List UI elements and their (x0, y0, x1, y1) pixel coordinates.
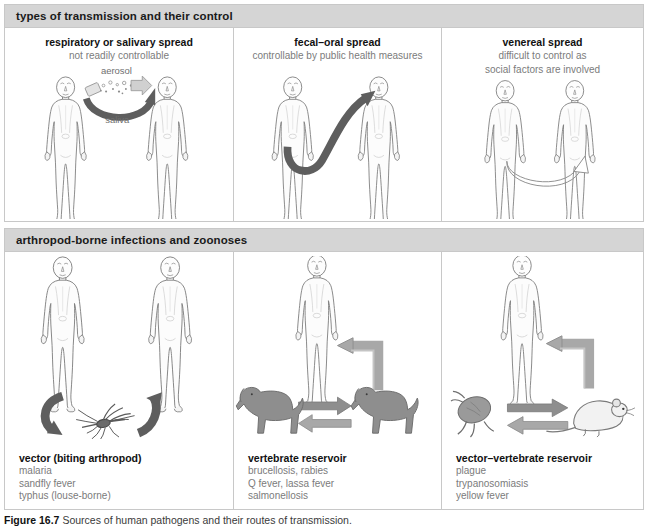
mosquito-icon (76, 404, 134, 439)
caption-line-vertebrate-2: Q fever, lassa fever (248, 478, 433, 491)
caption-head-vector-vertebrate: vector–vertebrate reservoir (456, 451, 635, 465)
human-body-icon (296, 256, 338, 407)
figure-caption: Figure 16.7 Sources of human pathogens a… (4, 514, 644, 528)
section-transmission-types: types of transmission and their control … (4, 4, 644, 222)
aerosol-spray-icon (85, 76, 152, 97)
human-body-icon (272, 77, 313, 219)
caption-vertebrate-reservoir: vertebrate reservoir brucellosis, rabies… (248, 451, 433, 503)
reservoir-arrow-icon (546, 336, 589, 389)
panel-title-venereal: venereal spread (442, 36, 643, 49)
human-body-icon (45, 77, 86, 219)
panel-vector-arthropod: vector (biting arthropod) malaria sandfl… (5, 252, 233, 509)
panel-vector-vertebrate-reservoir: vector–vertebrate reservoir plague trypa… (441, 252, 643, 509)
panel-row-bottom: vector (biting arthropod) malaria sandfl… (5, 252, 643, 509)
artwork-fecal-oral-spread (234, 64, 441, 219)
caption-head-vector: vector (biting arthropod) (19, 451, 225, 465)
panel-venereal-spread: venereal spread difficult to control as … (441, 28, 643, 221)
band-title-arthropod: arthropod-borne infections and zoonoses (5, 229, 643, 252)
panel-title-respiratory: respiratory or salivary spread (5, 36, 233, 49)
caption-head-vertebrate: vertebrate reservoir (248, 451, 433, 465)
panel-title-fecal-oral: fecal–oral spread (234, 36, 441, 49)
vector-arrow-right-icon (138, 392, 161, 433)
panel-row-top: respiratory or salivary spread not readi… (5, 28, 643, 221)
panel-subtitle-venereal-line2: social factors are involved (442, 64, 643, 77)
caption-line-vector-vertebrate-1: plague (456, 465, 635, 478)
transmission-figure: types of transmission and their control … (0, 0, 648, 528)
section-arthropod-zoonoses: arthropod-borne infections and zoonoses (4, 228, 644, 510)
caption-vector-vertebrate: vector–vertebrate reservoir plague trypa… (456, 451, 635, 503)
panel-vertebrate-reservoir: vertebrate reservoir brucellosis, rabies… (233, 252, 441, 509)
flea-icon (451, 391, 494, 437)
dog-icon (351, 387, 418, 433)
panel-respiratory-salivary-spread: respiratory or salivary spread not readi… (5, 28, 233, 221)
dog-icon (236, 387, 303, 433)
artwork-respiratory-spread: aerosol (5, 64, 233, 219)
caption-line-vertebrate-1: brucellosis, rabies (248, 465, 433, 478)
panel-subtitle-fecal-oral: controllable by public health measures (234, 50, 441, 63)
caption-line-vector-vertebrate-2: trypanosomiasis (456, 478, 635, 491)
caption-line-vector-vertebrate-3: yellow fever (456, 490, 635, 503)
saliva-label: saliva (105, 114, 130, 125)
caption-line-vector-1: malaria (19, 465, 225, 478)
human-body-icon (149, 257, 192, 412)
artwork-vector-vertebrate-reservoir (442, 256, 643, 439)
caption-line-vector-2: sandfly fever (19, 478, 225, 491)
flea-rat-exchange-arrows-icon (507, 399, 567, 434)
human-body-icon (41, 257, 84, 412)
dog-exchange-arrows-icon (299, 397, 352, 432)
caption-vector: vector (biting arthropod) malaria sandfl… (19, 451, 225, 503)
band-title-transmission: types of transmission and their control (5, 5, 643, 28)
caption-line-vector-3: typhus (louse-borne) (19, 490, 225, 503)
artwork-venereal-spread (442, 78, 643, 219)
human-body-icon (554, 81, 595, 219)
panel-subtitle-respiratory: not readily controllable (5, 50, 233, 63)
artwork-vector-arthropod (5, 256, 233, 439)
human-body-icon (485, 81, 526, 219)
caption-line-vertebrate-3: salmonellosis (248, 490, 433, 503)
panel-subtitle-venereal-line1: difficult to control as (442, 50, 643, 63)
reservoir-arrow-icon (338, 338, 379, 391)
aerosol-label: aerosol (101, 65, 132, 76)
panel-fecal-oral-spread: fecal–oral spread controllable by public… (233, 28, 441, 221)
human-body-icon (501, 256, 543, 407)
vector-arrow-left-icon (45, 396, 62, 435)
figure-caption-label: Figure 16.7 (4, 514, 59, 526)
artwork-vertebrate-reservoir (234, 256, 441, 439)
figure-caption-text: Sources of human pathogens and their rou… (62, 514, 352, 526)
